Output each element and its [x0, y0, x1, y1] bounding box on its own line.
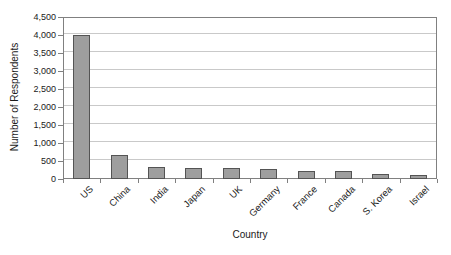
- y-axis-tick: [58, 53, 63, 54]
- y-tick-label: 1,000: [18, 138, 56, 148]
- x-axis-tick: [250, 179, 251, 183]
- bar-germany: [260, 169, 277, 179]
- gridline: [64, 87, 436, 88]
- gridline: [64, 69, 436, 70]
- y-tick-label: 4,500: [18, 12, 56, 22]
- y-axis-tick: [58, 89, 63, 90]
- x-axis-tick: [213, 179, 214, 183]
- y-axis-title: Number of Respondents: [9, 43, 20, 151]
- gridline: [64, 105, 436, 106]
- y-axis-tick: [58, 125, 63, 126]
- y-axis-tick: [58, 161, 63, 162]
- y-tick-label: 2,500: [18, 84, 56, 94]
- x-axis-tick: [362, 179, 363, 183]
- bar-china: [111, 155, 128, 179]
- x-axis-tick: [287, 179, 288, 183]
- bar-india: [148, 167, 165, 179]
- y-tick-label: 1,500: [18, 120, 56, 130]
- bar-s-korea: [372, 174, 389, 179]
- y-axis-tick: [58, 143, 63, 144]
- gridline: [64, 123, 436, 124]
- y-tick-label: 3,500: [18, 48, 56, 58]
- y-axis-tick: [58, 17, 63, 18]
- y-tick-label: 3,000: [18, 66, 56, 76]
- x-axis-tick: [138, 179, 139, 183]
- x-axis-tick: [437, 179, 438, 183]
- y-axis-tick: [58, 107, 63, 108]
- gridline: [64, 51, 436, 52]
- bar-us: [73, 35, 90, 179]
- y-tick-label: 4,000: [18, 30, 56, 40]
- bar-france: [298, 171, 315, 179]
- x-axis-tick: [400, 179, 401, 183]
- x-axis-tick: [63, 179, 64, 183]
- y-axis-tick: [58, 35, 63, 36]
- x-axis-tick: [100, 179, 101, 183]
- bar-israel: [410, 175, 427, 179]
- y-tick-label: 2,000: [18, 102, 56, 112]
- bar-japan: [185, 168, 202, 179]
- bar-uk: [223, 168, 240, 179]
- y-axis-tick: [58, 71, 63, 72]
- x-axis-tick: [325, 179, 326, 183]
- bar-canada: [335, 171, 352, 179]
- y-tick-label: 500: [18, 156, 56, 166]
- x-axis-tick: [175, 179, 176, 183]
- y-tick-label: 0: [18, 174, 56, 184]
- bar-chart-figure: Number of Respondents Country 05001,0001…: [0, 0, 451, 255]
- gridline: [64, 33, 436, 34]
- gridline: [64, 141, 436, 142]
